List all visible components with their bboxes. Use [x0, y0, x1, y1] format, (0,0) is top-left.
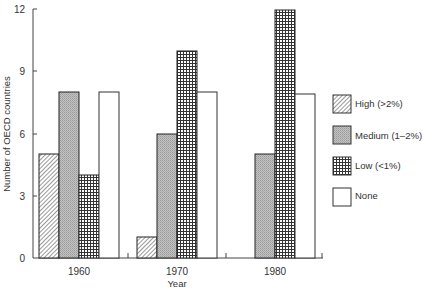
legend-item-high: High (>2%): [333, 95, 403, 113]
legend-label-high: High (>2%): [355, 98, 403, 109]
bar-1980-low: [275, 10, 295, 258]
bar-1960-low: [79, 175, 99, 258]
y-axis-title: Number of OECD countries: [1, 76, 12, 192]
y-tick-9: 9: [19, 66, 25, 77]
legend-swatch-medium: [333, 126, 351, 144]
x-tick-1970: 1970: [166, 266, 189, 277]
legend-label-none: None: [355, 190, 378, 201]
legend-swatch-high: [333, 95, 351, 113]
bars-1970: [137, 51, 217, 258]
bar-1970-medium: [157, 134, 177, 258]
legend-label-low: Low (<1%): [355, 160, 401, 171]
bar-1960-none: [99, 92, 119, 258]
legend-label-medium: Medium (1–2%): [355, 130, 422, 141]
legend: High (>2%) Medium (1–2%) Low (<1%) None: [333, 95, 422, 206]
y-tick-0: 0: [19, 253, 25, 264]
bar-1980-none: [295, 94, 315, 258]
legend-swatch-none: [333, 188, 351, 206]
bar-1960-high: [39, 154, 59, 258]
bar-1970-low: [177, 51, 197, 258]
legend-item-none: None: [333, 188, 378, 206]
bar-1960-medium: [59, 92, 79, 258]
bar-1970-none: [197, 92, 217, 258]
bar-1980-medium: [255, 154, 275, 258]
y-tick-6: 6: [19, 129, 25, 140]
bar-1970-high: [137, 237, 157, 258]
y-axis: 12 9 6 3 0 Number of OECD countries: [1, 4, 37, 264]
legend-item-medium: Medium (1–2%): [333, 126, 422, 144]
x-axis-title: Year: [167, 278, 186, 289]
y-tick-12: 12: [14, 4, 26, 15]
y-tick-3: 3: [19, 191, 25, 202]
bars-1980: [255, 10, 315, 258]
x-tick-1980: 1980: [264, 266, 287, 277]
legend-item-low: Low (<1%): [333, 157, 401, 175]
x-tick-1960: 1960: [68, 266, 91, 277]
legend-swatch-low: [333, 157, 351, 175]
bars-1960: [39, 92, 119, 258]
bar-chart: 12 9 6 3 0 Number of OECD countries 1960…: [0, 0, 424, 291]
